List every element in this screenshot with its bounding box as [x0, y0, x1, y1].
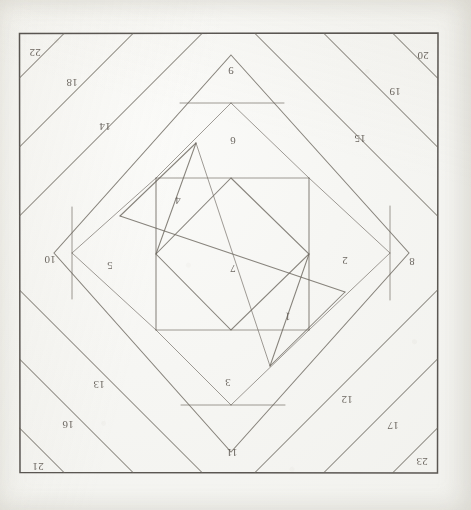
piece-number-11: 11: [227, 447, 238, 459]
piece-number-3: 3: [225, 377, 231, 389]
piece-number-17: 17: [387, 420, 399, 432]
piece-number-4: 4: [175, 195, 181, 207]
piece-number-16: 16: [62, 419, 74, 431]
piece-number-18: 18: [66, 77, 78, 89]
piece-number-19: 19: [389, 86, 401, 98]
piece-number-22: 22: [29, 47, 40, 59]
piece-number-23: 23: [416, 456, 428, 468]
piece-number-21: 21: [32, 461, 43, 473]
core-rotated-square: [120, 143, 345, 366]
piece-number-14: 14: [99, 121, 111, 133]
piece-number-8: 8: [409, 256, 415, 268]
piece-number-10: 10: [44, 254, 56, 266]
paper-sheet: .ln { fill:none; stroke:#6b665e; stroke-…: [0, 0, 471, 510]
piece-number-20: 20: [417, 50, 429, 62]
piece-number-labels: 1234567891011121314151617181920212223: [29, 47, 428, 473]
piece-number-5: 5: [107, 260, 113, 272]
piece-number-6: 6: [230, 135, 236, 147]
piece-number-12: 12: [341, 394, 352, 406]
piece-number-9: 9: [228, 65, 234, 77]
piece-number-1: 1: [285, 311, 291, 323]
piece-number-15: 15: [354, 133, 366, 145]
piece-number-7: 7: [230, 263, 236, 275]
quilt-block-drawing: .ln { fill:none; stroke:#6b665e; stroke-…: [0, 0, 471, 510]
piece-number-13: 13: [93, 379, 105, 391]
piece-number-2: 2: [342, 255, 348, 267]
